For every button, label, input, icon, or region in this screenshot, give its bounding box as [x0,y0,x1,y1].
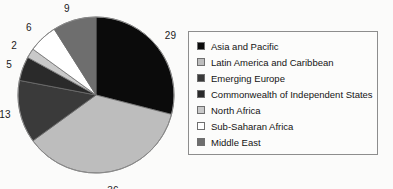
legend-item-label: Sub-Saharan Africa [211,121,293,132]
pie-slice-value-label: 5 [6,59,12,70]
legend-item[interactable]: North Africa [197,102,377,118]
legend-swatch-icon [197,122,205,130]
pie-chart-area: 2936135269 [0,0,190,189]
pie-slice-value-label: 36 [107,185,119,189]
legend-item[interactable]: Commonwealth of Independent States [197,86,377,102]
legend-item-label: Latin America and Caribbean [211,57,334,68]
legend: Asia and PacificLatin America and Caribb… [188,31,378,155]
pie-slices [18,17,174,173]
legend-item-label: Commonwealth of Independent States [211,89,373,100]
pie-chart-screenshot: 2936135269 Asia and PacificLatin America… [0,0,393,189]
legend-item[interactable]: Asia and Pacific [197,38,377,54]
legend-swatch-icon [197,74,205,82]
legend-item[interactable]: Latin America and Caribbean [197,54,377,70]
pie-slice-value-label: 13 [0,109,11,120]
pie-slice-value-label: 2 [11,40,17,51]
legend-swatch-icon [197,106,205,114]
legend-item[interactable]: Middle East [197,134,377,150]
legend-item[interactable]: Sub-Saharan Africa [197,118,377,134]
pie-slice-value-label: 6 [26,22,32,33]
legend-swatch-icon [197,58,205,66]
legend-item-label: Asia and Pacific [211,41,279,52]
legend-swatch-icon [197,90,205,98]
legend-swatch-icon [197,42,205,50]
legend-item-label: Middle East [211,137,261,148]
legend-swatch-icon [197,138,205,146]
legend-item-label: Emerging Europe [211,73,285,84]
pie-slice-value-label: 9 [64,3,70,14]
pie-slice-value-label: 29 [165,30,177,41]
legend-item[interactable]: Emerging Europe [197,70,377,86]
legend-item-label: North Africa [211,105,261,116]
